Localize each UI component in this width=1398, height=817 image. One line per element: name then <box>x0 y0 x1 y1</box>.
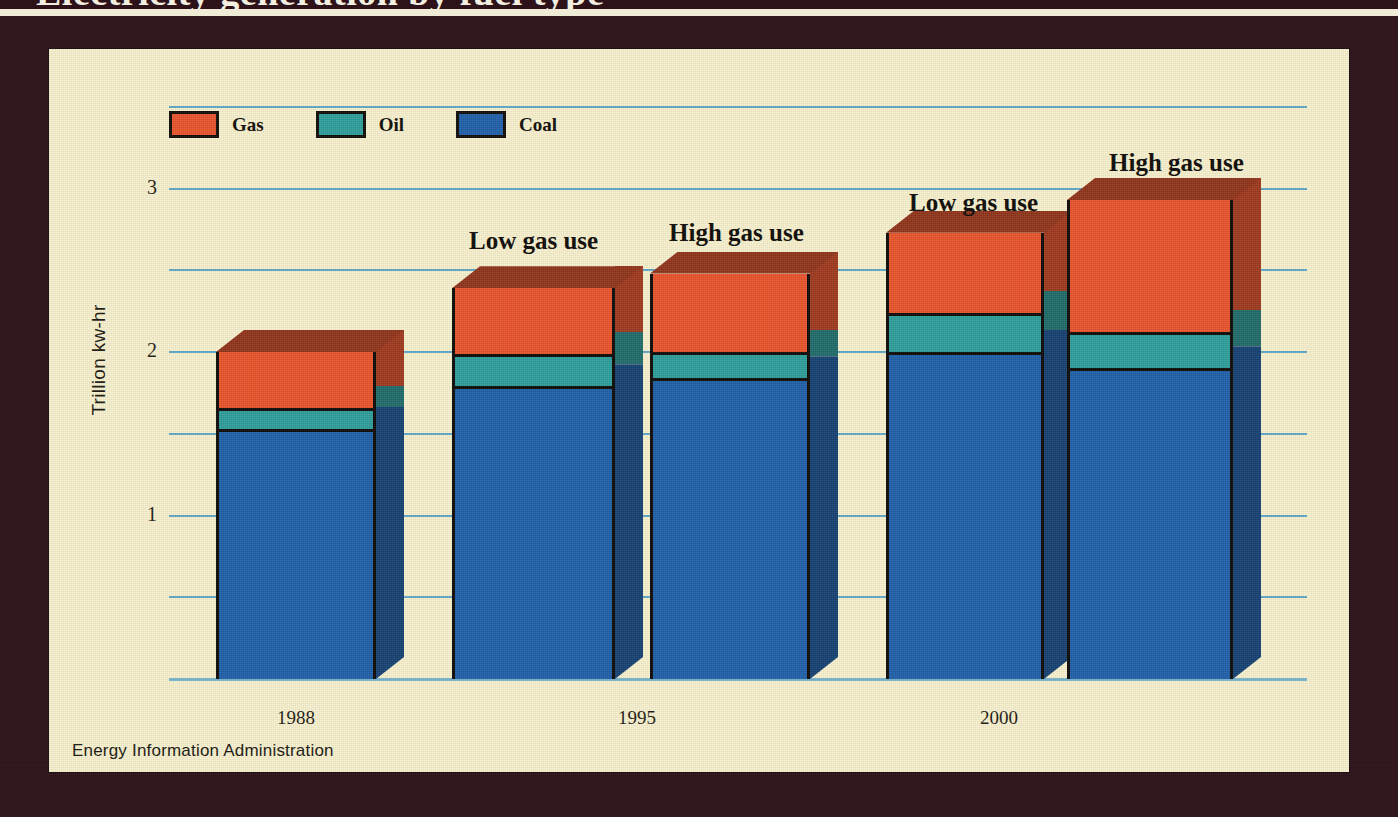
legend-item-gas: Gas <box>169 111 264 138</box>
bar-segment-divider <box>1070 368 1230 371</box>
bar-segment-divider <box>455 386 612 389</box>
bar-top-face <box>1067 178 1261 200</box>
bar-side-segment-coal <box>376 407 404 657</box>
poster-frame: Electricity generation by fuel type 321 … <box>0 0 1398 817</box>
bar-front-face[interactable] <box>452 288 615 679</box>
bar-1988[interactable] <box>216 49 376 772</box>
bar-segment-coal[interactable] <box>889 352 1041 679</box>
bar-segment-divider <box>219 429 373 432</box>
poster-title: Electricity generation by fuel type <box>36 0 604 9</box>
bar-segment-coal[interactable] <box>1070 368 1230 679</box>
bar-side-segment-oil <box>1233 310 1261 346</box>
bar-segment-coal[interactable] <box>653 378 807 679</box>
x-tick-label-2000: 2000 <box>949 707 1049 729</box>
scenario-label-high-gas-1: High gas use <box>669 219 804 247</box>
bar-segment-oil[interactable] <box>219 408 373 429</box>
bar-side-segment-coal <box>810 356 838 657</box>
bar-side-segment-oil <box>376 386 404 407</box>
x-tick-label-1988: 1988 <box>246 707 346 729</box>
bar-side-segment-oil <box>615 332 643 365</box>
y-tick-label-2: 2 <box>127 339 157 362</box>
x-tick-label-1995: 1995 <box>587 707 687 729</box>
bar-side-face <box>810 49 838 772</box>
chart-legend: Gas Oil Coal <box>169 111 609 138</box>
bar-1995-low-gas-use[interactable] <box>452 49 615 772</box>
bar-side-face <box>376 49 404 772</box>
bar-segment-oil[interactable] <box>455 354 612 387</box>
bar-segment-coal[interactable] <box>219 429 373 679</box>
bar-segment-gas[interactable] <box>1070 200 1230 332</box>
legend-swatch-coal <box>456 111 506 138</box>
bar-segment-oil[interactable] <box>653 352 807 378</box>
bar-segment-divider <box>889 313 1041 316</box>
y-tick-label-1: 1 <box>127 503 157 526</box>
bar-front-face[interactable] <box>650 274 810 679</box>
bar-segment-oil[interactable] <box>1070 332 1230 368</box>
bar-segment-oil[interactable] <box>889 313 1041 352</box>
bar-segment-gas[interactable] <box>653 274 807 352</box>
legend-swatch-oil <box>316 111 366 138</box>
bar-top-face <box>216 330 404 352</box>
bar-front-face[interactable] <box>886 233 1044 679</box>
y-axis-title: Trillion kw-hr <box>88 260 110 460</box>
bar-segment-gas[interactable] <box>219 352 373 408</box>
legend-label-gas: Gas <box>232 114 264 136</box>
bar-segment-divider <box>455 354 612 357</box>
scenario-label-high-gas-3: High gas use <box>1109 149 1244 177</box>
scenario-label-low-gas-2: Low gas use <box>909 189 1038 217</box>
scenario-label-low-gas-0: Low gas use <box>469 227 598 255</box>
legend-swatch-gas <box>169 111 219 138</box>
bar-side-segment-gas <box>1233 178 1261 310</box>
bar-segment-gas[interactable] <box>889 233 1041 313</box>
title-separator-rule <box>0 9 1398 16</box>
bar-segment-gas[interactable] <box>455 288 612 353</box>
bar-side-face <box>615 49 643 772</box>
bar-front-face[interactable] <box>1067 200 1233 679</box>
bar-side-segment-coal <box>1233 346 1261 657</box>
y-tick-label-3: 3 <box>127 176 157 199</box>
bar-segment-divider <box>219 408 373 411</box>
bar-segment-divider <box>889 352 1041 355</box>
bar-top-face <box>452 266 643 288</box>
bar-2000-low-gas-use[interactable] <box>886 49 1044 772</box>
bar-top-face <box>650 252 838 274</box>
legend-item-coal: Coal <box>456 111 557 138</box>
bar-segment-coal[interactable] <box>455 386 612 679</box>
bar-segment-divider <box>653 378 807 381</box>
bar-side-segment-oil <box>810 330 838 356</box>
chart-panel: 321 Trillion kw-hr Gas Oil Coal Low gas … <box>49 49 1349 772</box>
legend-label-oil: Oil <box>379 114 404 136</box>
bar-side-segment-coal <box>615 364 643 657</box>
bar-front-face[interactable] <box>216 352 376 679</box>
title-band: Electricity generation by fuel type <box>0 0 1398 9</box>
bar-segment-divider <box>1070 332 1230 335</box>
bar-1995-high-gas-use[interactable] <box>650 49 810 772</box>
bar-segment-divider <box>653 352 807 355</box>
legend-label-coal: Coal <box>519 114 557 136</box>
legend-item-oil: Oil <box>316 111 404 138</box>
source-attribution: Energy Information Administration <box>72 741 334 761</box>
